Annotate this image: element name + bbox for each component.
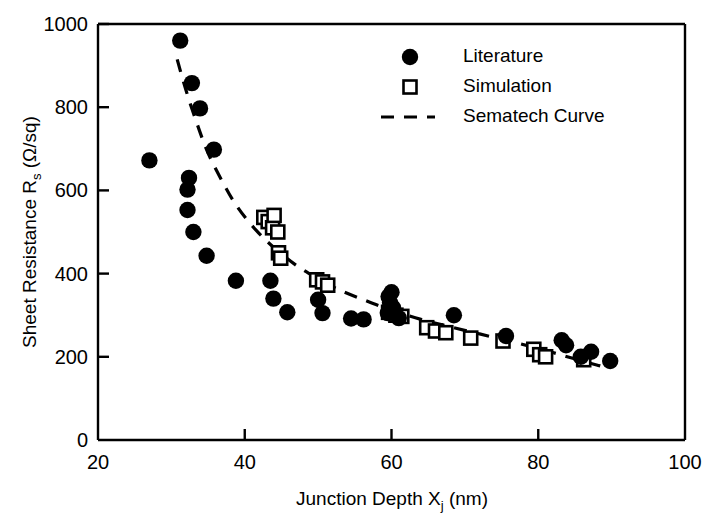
literature-data-point — [314, 305, 330, 321]
simulation-data-point — [464, 332, 477, 345]
literature-data-point — [179, 202, 195, 218]
y-tick-label: 600 — [55, 179, 88, 201]
y-tick-label: 200 — [55, 346, 88, 368]
simulation-data-point — [268, 209, 281, 222]
literature-data-point — [498, 328, 514, 344]
literature-data-point — [602, 353, 618, 369]
y-axis-title-unit: (Ω/sq) — [19, 116, 40, 173]
simulation-data-point — [539, 350, 552, 363]
x-tick-label: 60 — [380, 451, 402, 473]
simulation-data-point — [271, 226, 284, 239]
x-tick-label: 40 — [234, 451, 256, 473]
x-tick-label: 80 — [527, 451, 549, 473]
legend-marker-filled-circle — [402, 49, 418, 65]
literature-data-point — [179, 181, 195, 197]
legend-label: Literature — [463, 45, 543, 66]
literature-data-point — [265, 290, 281, 306]
literature-data-point — [206, 141, 222, 157]
y-axis-title-main: Sheet Resistance R — [19, 180, 40, 348]
literature-data-point — [355, 311, 371, 327]
legend-label: Simulation — [463, 75, 552, 96]
legend-label: Sematech Curve — [463, 105, 605, 126]
literature-data-point — [279, 304, 295, 320]
y-tick-label: 800 — [55, 96, 88, 118]
literature-data-point — [172, 32, 188, 48]
literature-data-point — [141, 152, 157, 168]
y-tick-label: 400 — [55, 263, 88, 285]
literature-data-point — [185, 224, 201, 240]
legend-marker-open-square — [404, 81, 417, 94]
x-axis-title-unit: (nm) — [444, 488, 488, 509]
sheet-resistance-vs-junction-depth-chart: 02004006008001000 20406080100 Sheet Resi… — [0, 0, 724, 525]
x-tick-label: 20 — [87, 451, 109, 473]
literature-data-point — [192, 100, 208, 116]
literature-data-point — [262, 273, 278, 289]
literature-data-point — [583, 344, 599, 360]
simulation-data-point — [321, 279, 334, 292]
literature-data-point — [558, 337, 574, 353]
literature-data-point — [228, 273, 244, 289]
literature-data-point — [382, 295, 398, 311]
literature-data-point — [391, 310, 407, 326]
y-tick-label: 0 — [77, 429, 88, 451]
literature-data-point — [184, 75, 200, 91]
simulation-data-point — [439, 326, 452, 339]
chart-background — [0, 0, 724, 525]
x-axis-title-main: Junction Depth X — [296, 488, 441, 509]
x-tick-label: 100 — [668, 451, 701, 473]
literature-data-point — [198, 248, 214, 264]
y-tick-label: 1000 — [44, 13, 89, 35]
simulation-data-point — [274, 252, 287, 265]
literature-data-point — [446, 307, 462, 323]
